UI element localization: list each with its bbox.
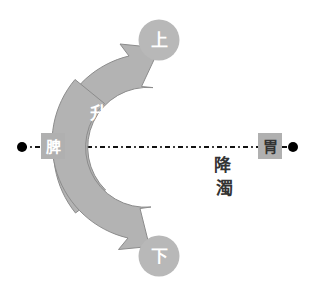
node-bottom: 下	[139, 236, 180, 277]
node-right: 胃	[258, 133, 282, 159]
node-left-label: 脾	[46, 138, 61, 156]
axis-left-endpoint-dot	[17, 142, 27, 152]
descending-label-char-1: 降	[214, 155, 232, 175]
node-top-label: 上	[151, 30, 168, 50]
diagram-canvas: 上 下 脾 胃 升 清 降 濁	[0, 0, 315, 295]
node-bottom-label: 下	[151, 246, 168, 266]
node-right-label: 胃	[263, 138, 278, 156]
descending-label-char-2: 濁	[216, 178, 233, 198]
ascending-label-char-2: 清	[93, 126, 110, 146]
ascending-label-char-1: 升	[90, 103, 107, 123]
node-top: 上	[139, 20, 180, 61]
axis-right-endpoint-dot	[288, 142, 298, 152]
node-left: 脾	[41, 133, 65, 159]
tcm-cycle-diagram: 上 下 脾 胃 升 清 降 濁	[0, 0, 315, 295]
